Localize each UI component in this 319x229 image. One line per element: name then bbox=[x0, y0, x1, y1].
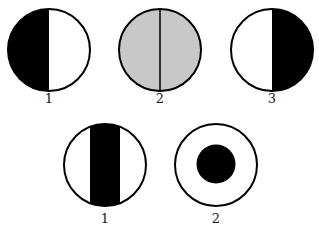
disc-top-1 bbox=[0, 0, 90, 100]
label-bottom-2: 2 bbox=[212, 211, 220, 226]
label-top-3: 3 bbox=[268, 91, 276, 106]
label-bottom-1: 1 bbox=[101, 211, 109, 226]
label-top-2: 2 bbox=[156, 91, 164, 106]
black-vertical-band bbox=[90, 120, 120, 210]
black-half-right bbox=[272, 0, 319, 100]
disc-bottom-2 bbox=[175, 124, 257, 206]
disc-top-2 bbox=[119, 9, 201, 91]
label-top-1: 1 bbox=[45, 91, 53, 106]
disc-bottom-1 bbox=[64, 120, 146, 210]
figure-canvas: 1 2 3 1 2 bbox=[0, 0, 319, 229]
disc-top-3 bbox=[231, 0, 319, 100]
black-center-dot bbox=[197, 145, 236, 184]
